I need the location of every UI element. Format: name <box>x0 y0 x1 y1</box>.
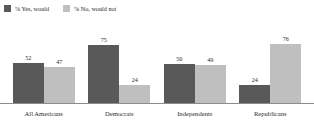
bar-value-republicans-no: 76 <box>283 35 289 43</box>
bar-value-independents-no: 49 <box>207 56 213 64</box>
x-axis-category-labels: All Americans Democrats Independents Rep… <box>0 106 314 122</box>
bar-wrap-republicans-no: 76 <box>270 16 301 104</box>
bar-wrap-independents-no: 49 <box>195 16 226 104</box>
bar-chart: % Yes, would % No, would not 52 47 75 24 <box>0 0 314 126</box>
bar-all-americans-no <box>44 67 75 104</box>
legend-label-yes: % Yes, would <box>15 5 49 12</box>
bar-wrap-all-americans-yes: 52 <box>13 16 44 104</box>
bar-value-all-americans-yes: 52 <box>25 54 31 62</box>
bar-group-all-americans: 52 47 <box>6 16 82 104</box>
bar-wrap-democrats-no: 24 <box>119 16 150 104</box>
bar-value-democrats-no: 24 <box>132 76 138 84</box>
category-label-democrats: Democrats <box>82 106 158 122</box>
bar-democrats-no <box>119 85 150 104</box>
legend-label-no: % No, would not <box>74 5 116 12</box>
bar-republicans-yes <box>239 85 270 104</box>
legend-swatch-yes <box>4 5 11 12</box>
bar-value-democrats-yes: 75 <box>101 36 107 44</box>
legend-entry-yes: % Yes, would <box>4 5 49 12</box>
bar-group-republicans: 24 76 <box>233 16 309 104</box>
bar-wrap-independents-yes: 50 <box>164 16 195 104</box>
bar-independents-yes <box>164 64 195 104</box>
bar-independents-no <box>195 65 226 104</box>
bar-republicans-no <box>270 44 301 104</box>
bar-group-independents: 50 49 <box>157 16 233 104</box>
bar-wrap-democrats-yes: 75 <box>88 16 119 104</box>
bar-group-democrats: 75 24 <box>82 16 158 104</box>
bar-value-all-americans-no: 47 <box>56 58 62 66</box>
x-axis-line <box>0 103 314 104</box>
category-label-republicans: Republicans <box>233 106 309 122</box>
bar-democrats-yes <box>88 45 119 104</box>
bar-all-americans-yes <box>13 63 44 104</box>
chart-legend: % Yes, would % No, would not <box>4 3 116 13</box>
bar-value-republicans-yes: 24 <box>252 76 258 84</box>
plot-area: 52 47 75 24 50 49 <box>0 16 314 104</box>
category-label-independents: Independents <box>157 106 233 122</box>
bar-wrap-republicans-yes: 24 <box>239 16 270 104</box>
bar-value-independents-yes: 50 <box>176 55 182 63</box>
bar-wrap-all-americans-no: 47 <box>44 16 75 104</box>
legend-swatch-no <box>63 5 70 12</box>
legend-entry-no: % No, would not <box>63 5 116 12</box>
category-label-all-americans: All Americans <box>6 106 82 122</box>
